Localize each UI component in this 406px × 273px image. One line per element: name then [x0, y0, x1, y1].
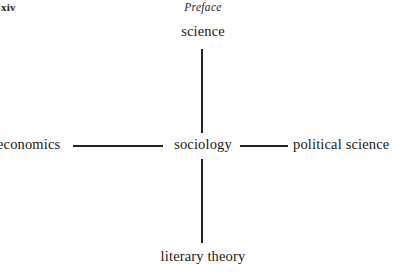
- diagram-node-literary-theory: literary theory: [0, 249, 406, 264]
- diagram-node-science: science: [0, 24, 406, 39]
- connector-science-to-sociology: [201, 49, 203, 133]
- sociology-relations-diagram: science economics sociology political sc…: [0, 0, 406, 273]
- book-page: xiv Preface science economics sociology …: [0, 0, 406, 273]
- connector-sociology-to-political-science: [240, 145, 288, 147]
- connector-sociology-to-literary-theory: [201, 159, 203, 243]
- diagram-node-political-science: political science: [293, 137, 389, 152]
